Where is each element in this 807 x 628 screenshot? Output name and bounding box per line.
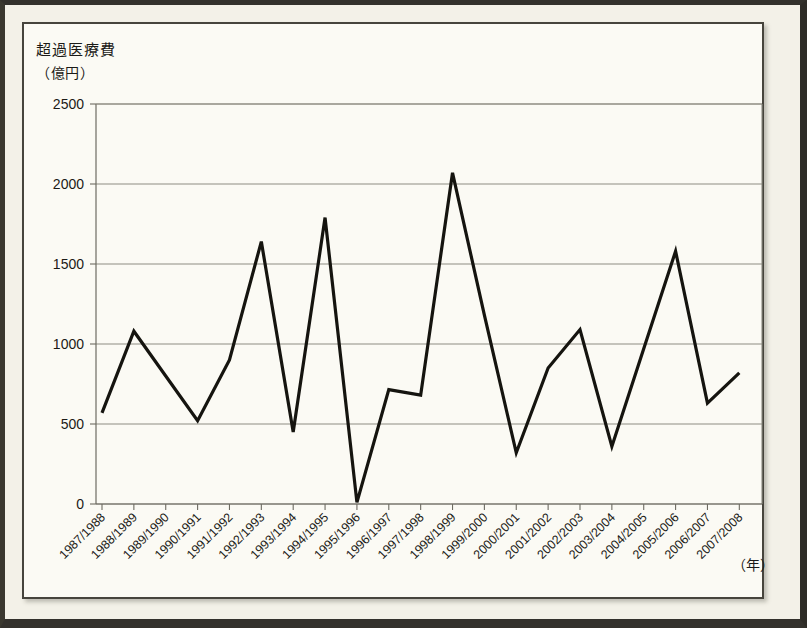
- chart-figure-panel: 超過医療費 （億円） 050010001500200025001987/1988…: [22, 22, 764, 599]
- x-axis-unit-label: （年）: [732, 557, 766, 573]
- y-axis-tick-label: 500: [61, 416, 85, 432]
- y-axis-tick-label: 1000: [53, 336, 84, 352]
- y-axis-tick-label: 0: [76, 496, 84, 512]
- scanned-page-background: 超過医療費 （億円） 050010001500200025001987/1988…: [0, 0, 807, 628]
- line-chart-svg: 050010001500200025001987/19881988/198919…: [24, 24, 766, 601]
- y-axis-tick-label: 2000: [53, 176, 84, 192]
- chart-plot-area: 超過医療費 （億円） 050010001500200025001987/1988…: [24, 24, 766, 601]
- data-series-line: [102, 173, 739, 503]
- y-axis-tick-label: 2500: [53, 96, 84, 112]
- y-axis-tick-label: 1500: [53, 256, 84, 272]
